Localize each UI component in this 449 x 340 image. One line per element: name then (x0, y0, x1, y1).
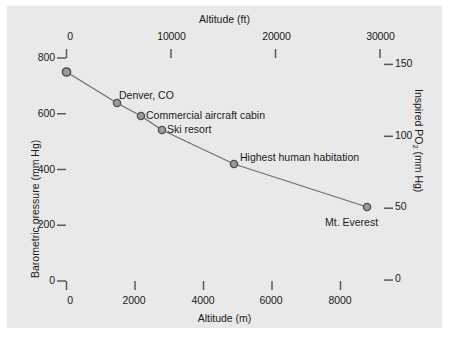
right-tick-marks (384, 64, 393, 280)
data-line (67, 72, 368, 207)
annotation-ski-resort: Ski resort (167, 123, 211, 135)
data-point-aircraft-cabin[interactable] (137, 112, 144, 119)
data-point-ski-resort[interactable] (158, 126, 165, 133)
figure-panel: Altitude (ft) 0 10000 20000 30000 Barome… (7, 6, 442, 328)
annotation-mt-everest: Mt. Everest (325, 216, 378, 228)
data-point-highest-habitation[interactable] (230, 160, 237, 167)
plot-graphics (7, 6, 442, 328)
annotation-aircraft-cabin: Commercial aircraft cabin (146, 109, 265, 121)
annotation-denver: Denver, CO (119, 89, 174, 101)
data-point-sea-level[interactable] (62, 68, 70, 76)
data-markers (62, 68, 370, 211)
data-point-mt-everest[interactable] (363, 203, 370, 210)
bottom-tick-marks (67, 281, 341, 290)
left-tick-marks (57, 58, 66, 281)
top-tick-marks (67, 49, 381, 58)
annotation-highest-habitation: Highest human habitation (240, 151, 359, 163)
